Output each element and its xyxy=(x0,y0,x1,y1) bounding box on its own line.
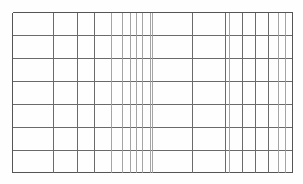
grid-cell-r5-c11[interactable] xyxy=(152,104,192,127)
grid-cell-r5-c9[interactable] xyxy=(142,104,150,127)
grid-cell-r6-c7[interactable] xyxy=(130,127,136,150)
grid-cell-r1-c7[interactable] xyxy=(130,12,136,35)
grid-cell-r6-c3[interactable] xyxy=(77,127,94,150)
grid-cell-r4-c13[interactable] xyxy=(225,81,229,104)
grid-cell-r7-c2[interactable] xyxy=(53,150,77,172)
grid-cell-r4-c10[interactable] xyxy=(150,81,152,104)
grid-cell-r3-c14[interactable] xyxy=(229,58,242,81)
grid-cell-r7-c6[interactable] xyxy=(122,150,130,172)
grid-cell-r3-c19[interactable] xyxy=(285,58,292,81)
grid-cell-r2-c13[interactable] xyxy=(225,35,229,58)
grid-cell-r6-c16[interactable] xyxy=(255,127,268,150)
grid-cell-r2-c4[interactable] xyxy=(94,35,111,58)
grid-cell-r7-c15[interactable] xyxy=(242,150,255,172)
grid-cell-r6-c13[interactable] xyxy=(225,127,229,150)
grid-cell-r3-c5[interactable] xyxy=(111,58,122,81)
grid-cell-r5-c2[interactable] xyxy=(53,104,77,127)
grid-cell-r5-c1[interactable] xyxy=(12,104,53,127)
grid-cell-r1-c18[interactable] xyxy=(278,12,285,35)
grid-cell-r7-c5[interactable] xyxy=(111,150,122,172)
grid-cell-r3-c6[interactable] xyxy=(122,58,130,81)
grid-cell-r6-c2[interactable] xyxy=(53,127,77,150)
grid-cell-r1-c11[interactable] xyxy=(152,12,192,35)
grid-cell-r1-c17[interactable] xyxy=(268,12,278,35)
grid-cell-r2-c11[interactable] xyxy=(152,35,192,58)
grid-cells[interactable] xyxy=(12,12,292,172)
grid-cell-r2-c10[interactable] xyxy=(150,35,152,58)
grid-cell-r5-c14[interactable] xyxy=(229,104,242,127)
grid-cell-r1-c4[interactable] xyxy=(94,12,111,35)
grid-cell-r4-c16[interactable] xyxy=(255,81,268,104)
grid-cell-r5-c5[interactable] xyxy=(111,104,122,127)
grid-cell-r7-c19[interactable] xyxy=(285,150,292,172)
grid-cell-r3-c7[interactable] xyxy=(130,58,136,81)
grid-cell-r7-c12[interactable] xyxy=(192,150,225,172)
grid-cell-r5-c13[interactable] xyxy=(225,104,229,127)
grid-cell-r5-c12[interactable] xyxy=(192,104,225,127)
grid-cell-r1-c2[interactable] xyxy=(53,12,77,35)
grid-cell-r7-c9[interactable] xyxy=(142,150,150,172)
grid-table[interactable] xyxy=(0,0,303,184)
grid-cell-r2-c8[interactable] xyxy=(136,35,142,58)
grid-cell-r3-c17[interactable] xyxy=(268,58,278,81)
grid-cell-r5-c6[interactable] xyxy=(122,104,130,127)
grid-cell-r4-c8[interactable] xyxy=(136,81,142,104)
grid-cell-r3-c4[interactable] xyxy=(94,58,111,81)
grid-cell-r6-c4[interactable] xyxy=(94,127,111,150)
grid-cell-r4-c4[interactable] xyxy=(94,81,111,104)
grid-cell-r1-c19[interactable] xyxy=(285,12,292,35)
grid-cell-r2-c3[interactable] xyxy=(77,35,94,58)
grid-cell-r6-c9[interactable] xyxy=(142,127,150,150)
grid-cell-r1-c9[interactable] xyxy=(142,12,150,35)
grid-cell-r4-c1[interactable] xyxy=(12,81,53,104)
grid-cell-r6-c18[interactable] xyxy=(278,127,285,150)
grid-cell-r4-c6[interactable] xyxy=(122,81,130,104)
grid-cell-r7-c11[interactable] xyxy=(152,150,192,172)
grid-cell-r2-c9[interactable] xyxy=(142,35,150,58)
grid-cell-r2-c6[interactable] xyxy=(122,35,130,58)
grid-cell-r4-c3[interactable] xyxy=(77,81,94,104)
grid-cell-r7-c10[interactable] xyxy=(150,150,152,172)
grid-cell-r4-c15[interactable] xyxy=(242,81,255,104)
grid-cell-r7-c14[interactable] xyxy=(229,150,242,172)
grid-cell-r3-c9[interactable] xyxy=(142,58,150,81)
grid-cell-r7-c3[interactable] xyxy=(77,150,94,172)
grid-cell-r4-c11[interactable] xyxy=(152,81,192,104)
grid-cell-r3-c10[interactable] xyxy=(150,58,152,81)
grid-cell-r1-c3[interactable] xyxy=(77,12,94,35)
grid-cell-r1-c1[interactable] xyxy=(12,12,53,35)
grid-cell-r2-c17[interactable] xyxy=(268,35,278,58)
grid-cell-r2-c1[interactable] xyxy=(12,35,53,58)
grid-cell-r4-c2[interactable] xyxy=(53,81,77,104)
grid-cell-r1-c6[interactable] xyxy=(122,12,130,35)
grid-cell-r3-c3[interactable] xyxy=(77,58,94,81)
grid-cell-r2-c18[interactable] xyxy=(278,35,285,58)
grid-cell-r6-c8[interactable] xyxy=(136,127,142,150)
grid-cell-r2-c14[interactable] xyxy=(229,35,242,58)
grid-cell-r5-c15[interactable] xyxy=(242,104,255,127)
grid-cell-r6-c19[interactable] xyxy=(285,127,292,150)
grid-cell-r4-c17[interactable] xyxy=(268,81,278,104)
grid-cell-r5-c3[interactable] xyxy=(77,104,94,127)
grid-cell-r1-c10[interactable] xyxy=(150,12,152,35)
grid-cell-r3-c18[interactable] xyxy=(278,58,285,81)
grid-cell-r2-c15[interactable] xyxy=(242,35,255,58)
grid-cell-r4-c7[interactable] xyxy=(130,81,136,104)
grid-cell-r5-c17[interactable] xyxy=(268,104,278,127)
grid-cell-r7-c1[interactable] xyxy=(12,150,53,172)
grid-cell-r5-c18[interactable] xyxy=(278,104,285,127)
grid-cell-r7-c13[interactable] xyxy=(225,150,229,172)
grid-cell-r3-c11[interactable] xyxy=(152,58,192,81)
grid-cell-r7-c18[interactable] xyxy=(278,150,285,172)
grid-cell-r1-c14[interactable] xyxy=(229,12,242,35)
grid-cell-r6-c5[interactable] xyxy=(111,127,122,150)
grid-cell-r6-c14[interactable] xyxy=(229,127,242,150)
grid-cell-r4-c19[interactable] xyxy=(285,81,292,104)
grid-cell-r1-c15[interactable] xyxy=(242,12,255,35)
grid-cell-r4-c14[interactable] xyxy=(229,81,242,104)
grid-cell-r7-c7[interactable] xyxy=(130,150,136,172)
grid-cell-r6-c11[interactable] xyxy=(152,127,192,150)
grid-cell-r2-c12[interactable] xyxy=(192,35,225,58)
grid-cell-r1-c13[interactable] xyxy=(225,12,229,35)
grid-cell-r7-c17[interactable] xyxy=(268,150,278,172)
